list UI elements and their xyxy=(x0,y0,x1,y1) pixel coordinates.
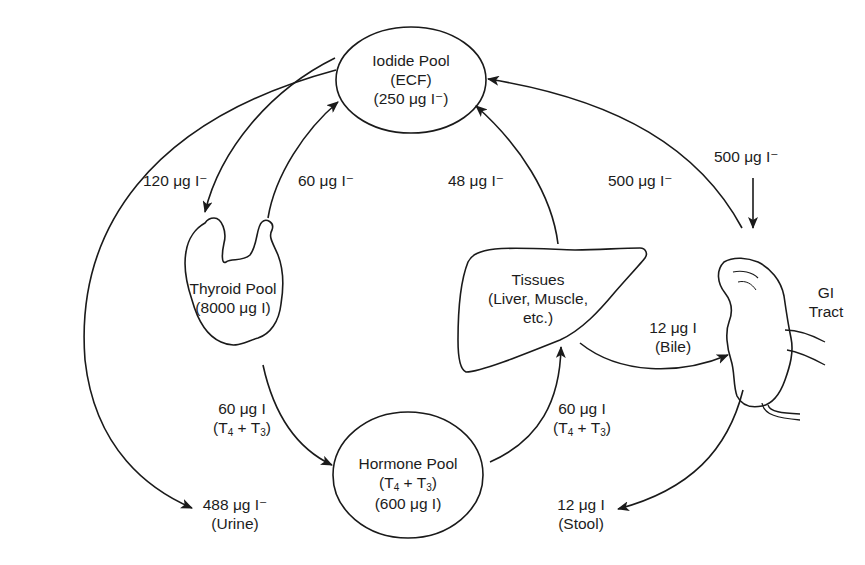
flow-label-tissues-to-iodide: 48 μg I⁻ xyxy=(448,171,504,190)
thyroid-pool-label: Thyroid Pool (8000 μg I) xyxy=(174,279,292,317)
gi-tract-subtitle: Tract xyxy=(798,302,854,321)
flow-label-hormone-to-tissues: 60 μg I (T4 + T3) xyxy=(544,399,620,439)
arrow-gi-to-iodide xyxy=(488,79,742,228)
gi-tract-shape xyxy=(718,258,792,406)
hormone-pool-label: Hormone Pool (T4 + T3) (600 μg I) xyxy=(338,454,478,513)
tissues-title: Tissues xyxy=(468,270,608,289)
gi-tract-label: GI Tract xyxy=(798,283,854,321)
tissues-subtitle-etc: etc.) xyxy=(468,308,608,327)
flow-label-thyroid-to-iodide: 60 μg I⁻ xyxy=(298,171,354,190)
thyroid-pool-title: Thyroid Pool xyxy=(174,279,292,298)
iodide-pool-amount: (250 μg I⁻) xyxy=(351,89,471,108)
tissues-subtitle: (Liver, Muscle, xyxy=(468,289,608,308)
iodide-pool-title: Iodide Pool xyxy=(351,51,471,70)
hormone-pool-title: Hormone Pool xyxy=(338,454,478,473)
flow-label-iodide-to-thyroid: 120 μg I⁻ xyxy=(143,171,208,190)
arrow-gi-to-stool xyxy=(618,390,743,509)
arrow-thyroid-to-iodide xyxy=(268,102,338,218)
flow-label-intake-to-gi: 500 μg I⁻ xyxy=(714,147,779,166)
flow-label-gi-to-iodide: 500 μg I⁻ xyxy=(608,171,673,190)
flow-label-iodide-to-urine: 488 μg I⁻ (Urine) xyxy=(195,495,275,533)
flow-label-gi-to-stool: 12 μg I (Stool) xyxy=(545,495,617,533)
gi-tract-title: GI xyxy=(798,283,854,302)
hormone-pool-composition: (T4 + T3) xyxy=(338,473,478,494)
iodide-pool-subtitle: (ECF) xyxy=(351,70,471,89)
flow-label-tissues-to-gi: 12 μg I (Bile) xyxy=(635,318,711,356)
flow-label-thyroid-to-hormone: 60 μg I (T4 + T3) xyxy=(204,399,280,439)
iodine-cycle-diagram: Iodide Pool (ECF) (250 μg I⁻) Thyroid Po… xyxy=(0,0,865,565)
thyroid-pool-amount: (8000 μg I) xyxy=(174,298,292,317)
iodide-pool-label: Iodide Pool (ECF) (250 μg I⁻) xyxy=(351,51,471,108)
hormone-pool-amount: (600 μg I) xyxy=(338,494,478,513)
tissues-label: Tissues (Liver, Muscle, etc.) xyxy=(468,270,608,327)
